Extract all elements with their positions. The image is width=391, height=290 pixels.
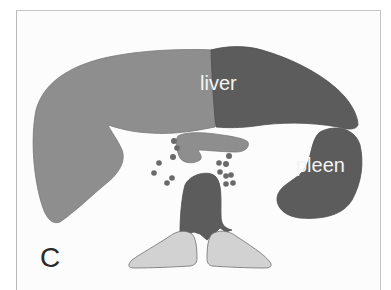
kidney-left xyxy=(129,231,197,268)
panel-letter: C xyxy=(40,244,60,272)
anatomy-figure: liver pleen C xyxy=(0,0,391,290)
kidney-right xyxy=(207,231,271,268)
duodenum xyxy=(176,133,248,163)
liver-label: liver xyxy=(200,73,237,93)
spleen-label: pleen xyxy=(296,155,345,175)
